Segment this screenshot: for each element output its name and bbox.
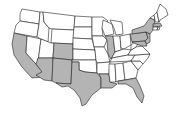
us-states-map [0,0,189,119]
state-ma [153,23,162,27]
state-wy [51,29,74,44]
state-sd [73,27,92,39]
state-ny [132,18,155,34]
state-me [157,4,168,22]
state-ne [73,38,95,50]
state-oh [120,34,131,49]
state-nd [74,16,92,27]
state-ia [92,36,107,47]
state-ar [97,62,110,74]
state-co [53,43,73,60]
state-fl [118,78,144,103]
state-nm [52,58,72,84]
state-ks [73,49,96,60]
